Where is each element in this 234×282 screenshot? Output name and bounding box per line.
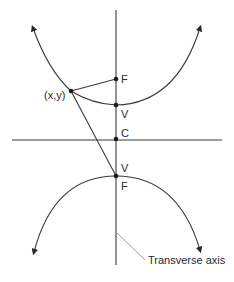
lower-branch-right (116, 176, 200, 250)
label-center: C (121, 127, 129, 139)
hyperbola-diagram: (x,y) F V C V F Transverse axis (0, 0, 234, 282)
focal-line-lower (71, 91, 116, 176)
label-point-xy: (x,y) (44, 89, 65, 101)
transverse-axis-leader (117, 233, 145, 260)
focus-upper-point (114, 77, 119, 82)
lower-branch-left (34, 176, 116, 252)
vertex-upper-point (114, 103, 119, 108)
point-xy (69, 89, 74, 94)
label-focus-upper: F (121, 73, 128, 85)
label-vertex-lower: V (121, 162, 129, 174)
upper-branch-right (71, 28, 200, 105)
center-point (114, 137, 119, 142)
label-focus-lower: F (121, 180, 128, 192)
focal-line-upper (71, 79, 116, 91)
label-vertex-upper: V (121, 108, 129, 120)
label-transverse-axis: Transverse axis (148, 254, 226, 266)
vertex-focus-lower-point (114, 174, 119, 179)
upper-branch-left (33, 28, 71, 91)
